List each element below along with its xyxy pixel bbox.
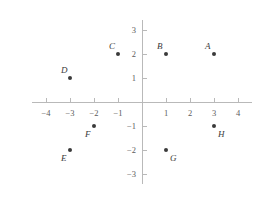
x-axis-tick (238, 98, 239, 102)
y-axis-tick-label: 3 (120, 26, 136, 35)
data-point-label: A (205, 42, 211, 51)
x-axis-tick (70, 98, 71, 102)
x-axis-tick (190, 98, 191, 102)
data-point-label: C (109, 42, 115, 51)
x-axis-tick (214, 98, 215, 102)
y-axis-tick (143, 126, 147, 127)
data-point (68, 148, 72, 152)
x-axis-tick-label: 3 (212, 109, 216, 118)
data-point-label: F (85, 130, 91, 139)
y-axis-tick (143, 150, 147, 151)
data-point-label: D (61, 66, 68, 75)
data-point (68, 76, 72, 80)
x-axis-tick-label: −1 (113, 109, 122, 118)
data-point (212, 52, 216, 56)
data-point (116, 52, 120, 56)
coordinate-plane-chart: −4−3−2−11234321−1−2−3 ABCDEFGH (0, 0, 274, 200)
data-point-label: B (157, 42, 163, 51)
x-axis-tick-label: 2 (188, 109, 192, 118)
data-point (92, 124, 96, 128)
data-point-label: G (170, 154, 177, 163)
data-point (164, 52, 168, 56)
y-axis-tick (143, 54, 147, 55)
y-axis-tick (143, 78, 147, 79)
x-axis-tick (46, 98, 47, 102)
y-axis-tick-label: −2 (120, 146, 136, 155)
x-axis-tick-label: −4 (41, 109, 50, 118)
y-axis-tick (143, 30, 147, 31)
x-axis-tick-label: −2 (89, 109, 98, 118)
x-axis-tick-label: 1 (164, 109, 168, 118)
y-axis-tick-label: −3 (120, 170, 136, 179)
x-axis-tick (166, 98, 167, 102)
data-point (164, 148, 168, 152)
data-point (212, 124, 216, 128)
x-axis-tick (118, 98, 119, 102)
y-axis-tick-label: 1 (120, 74, 136, 83)
y-axis-tick-label: 2 (120, 50, 136, 59)
x-axis-tick (94, 98, 95, 102)
x-axis-tick-label: −3 (65, 109, 74, 118)
y-axis-line (142, 20, 143, 183)
x-axis-tick-label: 4 (236, 109, 240, 118)
data-point-label: E (61, 154, 67, 163)
y-axis-tick (143, 174, 147, 175)
y-axis-tick-label: −1 (120, 122, 136, 131)
data-point-label: H (218, 130, 225, 139)
